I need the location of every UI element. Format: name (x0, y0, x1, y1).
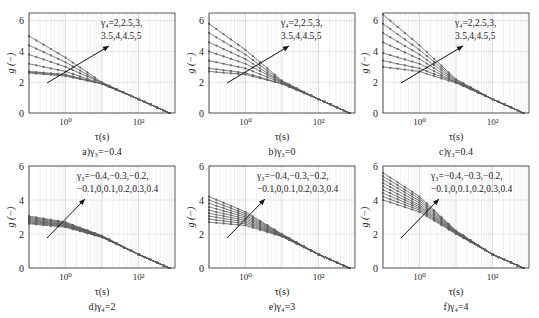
y-axis-label: g (−) (359, 206, 371, 228)
y-tick-label: 6 (373, 15, 378, 26)
panel-d: 024610⁰10²g (−)τ(s)d)γ₄=2γ₃=−0.4,−0.3,−0… (5, 161, 175, 314)
annotation-line-2: 3.5,4,4.5,5 (281, 31, 322, 41)
y-tick-label: 0 (19, 108, 24, 119)
y-tick-label: 6 (19, 161, 24, 172)
y-tick-label: 2 (19, 229, 24, 240)
y-tick-label: 2 (373, 77, 378, 88)
x-axis-label: τ(s) (449, 286, 464, 298)
y-axis-label: g (−) (185, 52, 197, 74)
annotation-line-2: 3.5,4,4.5,5 (455, 31, 496, 41)
y-axis-label: g (−) (5, 206, 17, 228)
x-tick-label: 10⁰ (239, 272, 252, 282)
y-tick-label: 4 (373, 46, 378, 57)
annotation-line-2: 3.5,4,4.5,5 (101, 31, 142, 41)
annotation-line-1: γ₃=−0.4,−0.3,−0.2, (256, 171, 329, 181)
panel-b: 024610⁰10²g (−)τ(s)b)γ₃=0γ₄=2,2.5,3,3.5,… (185, 13, 355, 158)
y-tick-label: 4 (199, 195, 204, 206)
y-axis-label: g (−) (185, 206, 197, 228)
figure: 024610⁰10²g (−)τ(s)a)γ₃=−0.4γ₄=2,2.5,3,3… (0, 0, 539, 318)
y-tick-label: 4 (19, 46, 24, 57)
x-tick-label: 10² (313, 272, 325, 282)
panel-caption: d)γ₄=2 (89, 301, 116, 313)
y-tick-label: 4 (373, 195, 378, 206)
y-tick-label: 4 (19, 195, 24, 206)
x-tick-label: 10⁰ (59, 117, 72, 127)
x-tick-label: 10⁰ (239, 117, 252, 127)
x-tick-label: 10² (133, 272, 145, 282)
annotation-line-1: γ₄=2,2.5,3, (100, 18, 142, 28)
y-tick-label: 2 (199, 229, 204, 240)
y-tick-label: 2 (19, 77, 24, 88)
y-tick-label: 6 (199, 15, 204, 26)
annotation-line-2: −0.1,0,0.1,0.2,0.3,0.4 (257, 184, 339, 194)
annotation-line-1: γ₄=2,2.5,3, (280, 18, 322, 28)
y-tick-label: 0 (373, 263, 378, 274)
x-axis-label: τ(s) (275, 131, 290, 143)
panel-caption: c)γ₃=0.4 (439, 146, 473, 158)
panel-c: 024610⁰10²g (−)τ(s)c)γ₃=0.4γ₄=2,2.5,3,3.… (359, 13, 529, 158)
x-tick-label: 10⁰ (413, 117, 426, 127)
y-tick-label: 2 (373, 229, 378, 240)
x-tick-label: 10⁰ (59, 272, 72, 282)
x-tick-label: 10² (487, 272, 499, 282)
y-tick-label: 6 (19, 15, 24, 26)
y-tick-label: 4 (199, 46, 204, 57)
panel-caption: a)γ₃=−0.4 (82, 146, 121, 158)
y-tick-label: 6 (373, 161, 378, 172)
y-tick-label: 2 (199, 77, 204, 88)
x-axis-label: τ(s) (95, 286, 110, 298)
x-tick-label: 10² (133, 117, 145, 127)
x-axis-label: τ(s) (449, 131, 464, 143)
x-axis-label: τ(s) (95, 131, 110, 143)
annotation-line-2: −0.1,0,0.1,0.2,0.3,0.4 (77, 184, 159, 194)
panel-e: 024610⁰10²g (−)τ(s)e)γ₄=3γ₃=−0.4,−0.3,−0… (185, 161, 355, 314)
panel-caption: f)γ₄=4 (443, 301, 468, 313)
y-tick-label: 0 (199, 263, 204, 274)
x-tick-label: 10² (487, 117, 499, 127)
panel-a: 024610⁰10²g (−)τ(s)a)γ₃=−0.4γ₄=2,2.5,3,3… (5, 13, 175, 158)
y-tick-label: 0 (373, 108, 378, 119)
y-tick-label: 6 (199, 161, 204, 172)
panel-f: 024610⁰10²g (−)τ(s)f)γ₄=4γ₃=−0.4,−0.3,−0… (359, 161, 529, 314)
panel-caption: b)γ₃=0 (269, 146, 296, 158)
annotation-line-1: γ₃=−0.4,−0.3,−0.2, (430, 171, 503, 181)
annotation-line-1: γ₃=−0.4,−0.3,−0.2, (76, 171, 149, 181)
y-axis-label: g (−) (5, 52, 17, 74)
x-tick-label: 10⁰ (413, 272, 426, 282)
annotation-line-2: −0.1,0,0.1,0.2,0.3,0.4 (431, 184, 513, 194)
y-tick-label: 0 (19, 263, 24, 274)
x-axis-label: τ(s) (275, 286, 290, 298)
panel-caption: e)γ₄=3 (269, 301, 295, 313)
y-tick-label: 0 (199, 108, 204, 119)
x-tick-label: 10² (313, 117, 325, 127)
annotation-line-1: γ₄=2,2.5,3, (454, 18, 496, 28)
y-axis-label: g (−) (359, 52, 371, 74)
